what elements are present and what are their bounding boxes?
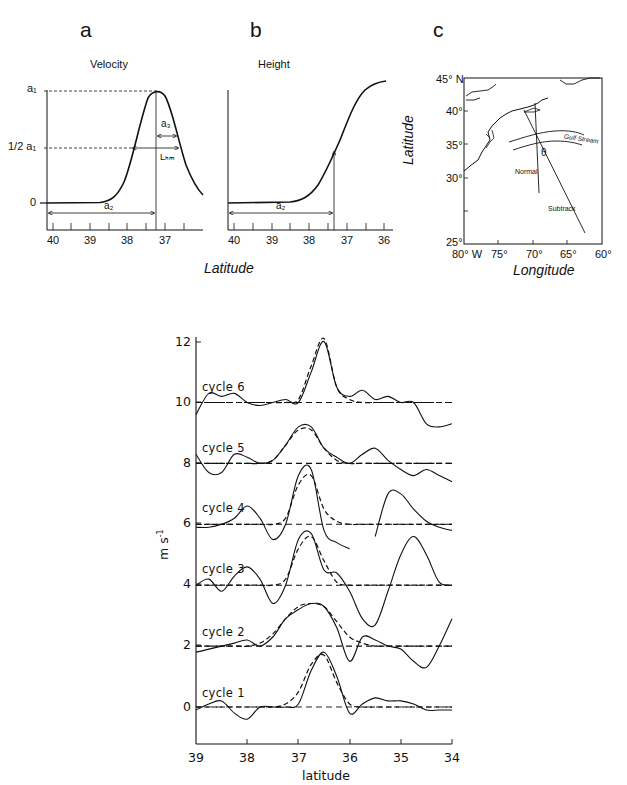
map-xtick-65: 65°: [560, 248, 577, 260]
panel-a-ylabel-half-a1: 1/2 a₁: [8, 140, 36, 152]
ylabel-main: m s: [156, 537, 171, 560]
xtick-35: 35: [393, 750, 409, 765]
ylabel-sup: -1: [156, 529, 165, 537]
panel-a-xtick-37: 37: [159, 234, 171, 246]
cycle-5-label: cycle 5: [202, 441, 245, 455]
panel-b-height-plot: [228, 81, 393, 230]
cycle-3-label: cycle 3: [202, 562, 245, 576]
figure-canvas: [0, 0, 627, 785]
map-xtick-80w: 80° W: [452, 248, 482, 260]
panel-a-xtick-40: 40: [47, 234, 59, 246]
cycle-2-label: cycle 2: [202, 625, 245, 639]
map-theta-label: θ: [541, 147, 547, 158]
map-ylabel: Latitude: [400, 115, 416, 165]
ytick-0: 0: [183, 699, 191, 714]
ytick-8: 8: [183, 455, 191, 470]
map-ytick-45: 45° N: [436, 73, 464, 85]
panel-b-xtick-39: 39: [266, 234, 278, 246]
ab-xlabel: Latitude: [204, 260, 254, 276]
bottom-xlabel: latitude: [302, 768, 350, 783]
panel-a-xtick-38: 38: [121, 234, 133, 246]
panel-a-ylabel-zero: 0: [30, 196, 36, 208]
xtick-38: 38: [239, 750, 255, 765]
ytick-4: 4: [183, 576, 191, 591]
fit-curve-4: [196, 474, 452, 524]
map-normal-label: Normal: [515, 168, 538, 175]
panel-b-xtick-36: 36: [378, 234, 390, 246]
panel-a-ylabel-a1: a₁: [27, 82, 37, 94]
ytick-10: 10: [175, 394, 191, 409]
panel-a-velocity-plot: [40, 90, 203, 230]
map-ytick-40: 40°: [446, 105, 463, 117]
map-subtrack-label: Subtrack: [548, 205, 576, 212]
observed-curve-3: [196, 531, 452, 627]
cycle-6-label: cycle 6: [202, 380, 245, 394]
map-xlabel: Longitude: [513, 262, 575, 278]
map-ytick-30: 30°: [446, 172, 463, 184]
cycle-1-label: cycle 1: [202, 686, 245, 700]
map-ytick-35: 35°: [446, 139, 463, 151]
panel-b-xtick-37: 37: [341, 234, 353, 246]
panel-b-xtick-38: 38: [303, 234, 315, 246]
panel-a-a3-label: a₃: [161, 118, 171, 129]
fit-curve-3: [196, 536, 452, 585]
map-xtick-60: 60°: [595, 248, 612, 260]
panel-a-a2-label: a₂: [104, 200, 113, 211]
ytick-6: 6: [183, 515, 191, 530]
map-xtick-70: 70°: [526, 248, 543, 260]
xtick-39: 39: [188, 750, 204, 765]
map-ytick-25: 25°: [446, 236, 463, 248]
bottom-ylabel: m s-1: [156, 529, 171, 560]
panel-a-lhm-label: Lₕₘ: [160, 152, 175, 162]
panel-b-xtick-40: 40: [228, 234, 240, 246]
map-xtick-75: 75°: [491, 248, 508, 260]
panel-a-xtick-39: 39: [84, 234, 96, 246]
xtick-36: 36: [342, 750, 358, 765]
xtick-37: 37: [291, 750, 307, 765]
cycle-4-label: cycle 4: [202, 501, 245, 515]
xtick-34: 34: [444, 750, 460, 765]
ytick-12: 12: [175, 334, 191, 349]
panel-c-map: [464, 78, 602, 244]
panel-b-a2-label: a₂: [276, 200, 285, 211]
cycles-velocity-chart: [196, 337, 452, 744]
ytick-2: 2: [183, 637, 191, 652]
